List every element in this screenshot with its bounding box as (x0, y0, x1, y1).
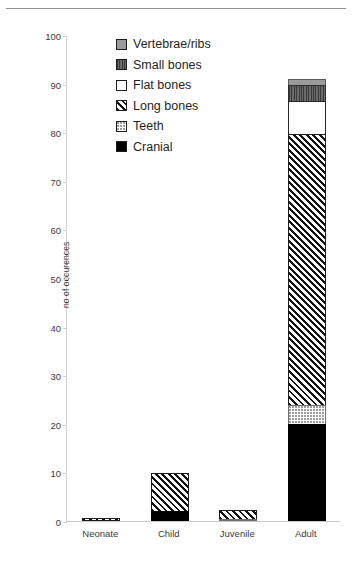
bar-segment-cranial[interactable] (151, 511, 189, 521)
y-axis-tick-label: 80 (50, 128, 61, 139)
bar-segment-long-bones[interactable] (151, 473, 189, 512)
legend-swatch-long-icon (116, 100, 127, 111)
legend-label: Cranial (133, 141, 173, 154)
legend-item-small-bones[interactable]: Small bones (116, 55, 266, 76)
bar-slot-adult (273, 36, 342, 521)
bar-segment-teeth[interactable] (288, 405, 326, 424)
x-axis-label-child: Child (135, 528, 204, 539)
legend-label: Vertebrae/ribs (133, 38, 211, 51)
y-axis-tick-label: 70 (50, 176, 61, 187)
legend-swatch-small-icon (116, 59, 127, 70)
bar-segment-flat-bones[interactable] (288, 101, 326, 135)
y-axis-tick-label: 100 (45, 31, 61, 42)
y-axis-tick-label: 20 (50, 419, 61, 430)
y-axis-tick-label: 60 (50, 225, 61, 236)
bar-segment-cranial[interactable] (288, 424, 326, 521)
stacked-bar-adult[interactable] (288, 79, 326, 521)
legend-swatch-teeth-icon (116, 121, 127, 132)
stacked-bar-child[interactable] (151, 473, 189, 521)
legend-label: Flat bones (133, 79, 191, 92)
y-axis-tick-label: 50 (50, 274, 61, 285)
chart-legend: Vertebrae/ribsSmall bonesFlat bonesLong … (116, 34, 266, 157)
legend-item-flat-bones[interactable]: Flat bones (116, 75, 266, 96)
legend-swatch-flat-icon (116, 80, 127, 91)
bar-segment-teeth[interactable] (219, 519, 257, 521)
legend-item-long-bones[interactable]: Long bones (116, 96, 266, 117)
y-axis-tick-label: 10 (50, 468, 61, 479)
stacked-bar-neonate[interactable] (82, 518, 120, 521)
legend-label: Teeth (133, 120, 164, 133)
y-axis-tick-label: 0 (56, 517, 61, 528)
stacked-bar-chart: no of occurences 0102030405060708090100 … (0, 0, 352, 570)
y-axis-tick-label: 40 (50, 322, 61, 333)
legend-item-teeth[interactable]: Teeth (116, 116, 266, 137)
x-axis-label-juvenile: Juvenile (203, 528, 272, 539)
y-axis-tick-label: 30 (50, 371, 61, 382)
legend-item-vertebrae-ribs[interactable]: Vertebrae/ribs (116, 34, 266, 55)
y-axis-tick-label: 90 (50, 79, 61, 90)
stacked-bar-juvenile[interactable] (219, 510, 257, 521)
legend-label: Small bones (133, 59, 202, 72)
bar-segment-long-bones[interactable] (288, 134, 326, 406)
legend-item-cranial[interactable]: Cranial (116, 137, 266, 158)
bar-segment-long-bones[interactable] (82, 518, 120, 521)
legend-label: Long bones (133, 100, 198, 113)
x-axis-label-adult: Adult (272, 528, 341, 539)
y-axis-tick-mark (63, 522, 67, 523)
legend-swatch-vert-icon (116, 39, 127, 50)
bar-segment-small-bones[interactable] (288, 85, 326, 102)
legend-swatch-cranial-icon (116, 141, 127, 152)
x-axis-label-neonate: Neonate (66, 528, 135, 539)
x-axis-labels: NeonateChildJuvenileAdult (66, 528, 340, 548)
